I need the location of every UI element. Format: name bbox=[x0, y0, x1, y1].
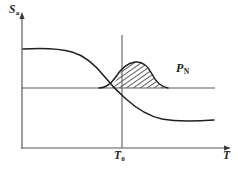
x-axis-label-text: T bbox=[223, 149, 230, 161]
t0-label-subscript: 0 bbox=[121, 155, 125, 163]
figure-container: Sa T0 T PN bbox=[0, 0, 238, 173]
x-axis-label: T bbox=[223, 150, 230, 162]
pn-label-subscript: N bbox=[183, 67, 189, 76]
figure-canvas bbox=[0, 0, 238, 173]
t0-label-text: T bbox=[114, 149, 121, 161]
y-axis-label: Sa bbox=[9, 4, 19, 17]
shaded-region-label-pn: PN bbox=[176, 62, 189, 76]
y-axis-label-subscript: a bbox=[15, 9, 19, 17]
y-axis-arrow-icon bbox=[19, 12, 24, 19]
x-axis-tick-label-t0: T0 bbox=[114, 150, 125, 163]
